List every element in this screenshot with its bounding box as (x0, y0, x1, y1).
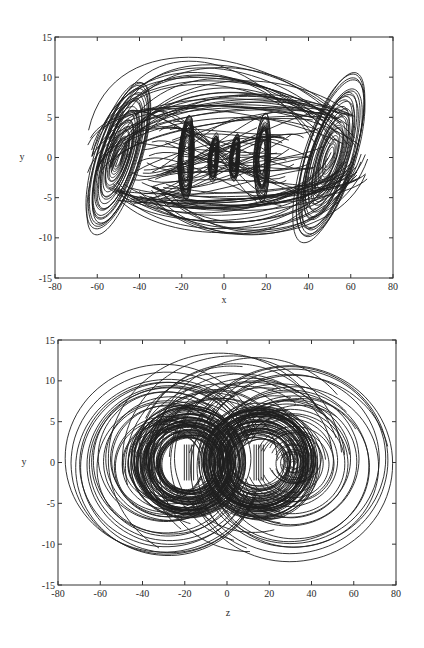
trajectory-x-y (86, 57, 368, 242)
y-tick-label: 5 (47, 112, 52, 123)
x-tick-label: 40 (307, 588, 317, 599)
y-tick-label: -5 (44, 192, 52, 203)
figure-canvas: -80-60-40-20020406080-15-10-5051015 x y … (0, 0, 424, 648)
x-tick-label: 80 (391, 588, 401, 599)
y-tick-label: -5 (47, 498, 55, 509)
figure: -80-60-40-20020406080-15-10-5051015 x y … (0, 0, 424, 648)
x-tick-label: 60 (346, 281, 356, 292)
y-tick-label: 10 (45, 375, 55, 386)
trajectory-z-y (65, 353, 392, 562)
y-tick-label: 0 (50, 457, 55, 468)
x-tick-label: 0 (225, 588, 230, 599)
y-axis-label-bottom: y (22, 456, 27, 467)
x-axis-label-bottom: z (226, 607, 231, 618)
x-tick-label: -60 (91, 281, 104, 292)
y-tick-label: 5 (50, 416, 55, 427)
y-axis-label-top: y (20, 151, 25, 162)
y-tick-label: 15 (42, 32, 52, 43)
trajectory-segment (133, 128, 319, 135)
y-tick-label: 10 (42, 72, 52, 83)
y-tick-label: 15 (45, 335, 55, 346)
x-tick-label: 40 (304, 281, 314, 292)
y-tick-label: -10 (39, 232, 52, 243)
x-tick-label: 60 (349, 588, 359, 599)
x-tick-label: -20 (178, 588, 191, 599)
plot-z-y-phase-portrait: -80-60-40-20020406080-15-10-5051015 z y (22, 335, 402, 619)
x-tick-label: 20 (264, 588, 274, 599)
y-tick-label: -10 (42, 539, 55, 550)
x-tick-label: 0 (222, 281, 227, 292)
x-tick-label: -40 (133, 281, 146, 292)
y-tick-label: 0 (47, 152, 52, 163)
x-axis-label-top: x (222, 294, 227, 305)
plot-x-y-phase-portrait: -80-60-40-20020406080-15-10-5051015 x y (20, 32, 399, 306)
y-tick-label: -15 (39, 273, 52, 284)
x-tick-label: 80 (388, 281, 398, 292)
x-tick-label: 20 (261, 281, 271, 292)
x-tick-label: -60 (94, 588, 107, 599)
x-tick-label: -40 (136, 588, 149, 599)
x-tick-label: -20 (175, 281, 188, 292)
y-tick-label: -15 (42, 580, 55, 591)
